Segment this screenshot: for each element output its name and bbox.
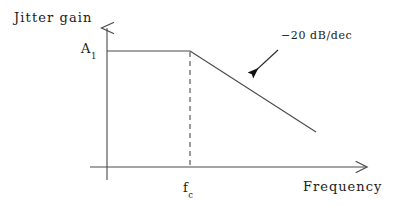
plateau-amplitude-label: A1: [81, 42, 96, 58]
x-axis-label: Frequency: [303, 180, 382, 193]
corner-frequency-subscript: c: [188, 190, 193, 200]
corner-frequency-label: fc: [183, 181, 193, 197]
slope-annotation-arrow: [252, 50, 278, 74]
y-axis-label: Jitter gain: [14, 11, 93, 24]
plateau-amplitude-subscript: 1: [91, 51, 96, 61]
jitter-gain-figure: Jitter gain Frequency A1 fc −20 dB/dec: [0, 0, 401, 207]
rolloff-slope-segment: [190, 51, 316, 132]
plateau-amplitude-base: A: [81, 41, 90, 56]
slope-annotation-label: −20 dB/dec: [281, 30, 352, 41]
